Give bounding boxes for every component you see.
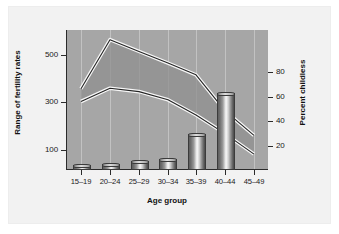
tick-mark-bottom xyxy=(225,170,226,175)
bar-30-34 xyxy=(159,159,177,170)
y-axis-right-title: Percent childless xyxy=(298,43,307,143)
fertility-range-band xyxy=(66,30,268,170)
bar-top-cap xyxy=(217,92,235,96)
bar-25-29 xyxy=(131,161,149,170)
bar-top-cap xyxy=(73,164,91,168)
tick-label-left-500: 500 xyxy=(32,50,58,59)
tick-mark-right xyxy=(268,121,273,122)
tick-label-age-25-29: 25–29 xyxy=(123,177,155,186)
tick-mark-bottom xyxy=(81,170,82,175)
tick-label-age-20-24: 20–24 xyxy=(94,177,126,186)
bar-top-cap xyxy=(159,158,177,162)
tick-label-left-300: 300 xyxy=(32,97,58,106)
tick-mark-right xyxy=(268,146,273,147)
tick-mark-bottom xyxy=(254,170,255,175)
bar-top-cap xyxy=(188,133,206,137)
tick-label-left-100: 100 xyxy=(32,145,58,154)
tick-mark-left xyxy=(61,150,66,151)
chart-figure: 500 300 100 80 60 40 20 15–19 20–24 25–2… xyxy=(0,0,339,234)
tick-label-age-35-39: 35–39 xyxy=(180,177,212,186)
tick-label-age-40-44: 40–44 xyxy=(209,177,241,186)
bar-top-cap xyxy=(131,160,149,164)
bar-35-39 xyxy=(188,134,206,170)
tick-mark-bottom xyxy=(110,170,111,175)
y-axis-left-title: Range of fertility rates xyxy=(13,43,22,143)
bar-40-44 xyxy=(217,93,235,170)
tick-mark-left xyxy=(61,102,66,103)
bar-top-cap xyxy=(102,163,120,167)
tick-mark-right xyxy=(268,72,273,73)
tick-mark-bottom xyxy=(196,170,197,175)
tick-mark-left xyxy=(61,55,66,56)
tick-label-age-15-19: 15–19 xyxy=(65,177,97,186)
tick-mark-right xyxy=(268,97,273,98)
x-axis-title: Age group xyxy=(66,196,268,205)
tick-mark-bottom xyxy=(139,170,140,175)
tick-label-age-45-49: 45–49 xyxy=(238,177,270,186)
tick-mark-bottom xyxy=(168,170,169,175)
